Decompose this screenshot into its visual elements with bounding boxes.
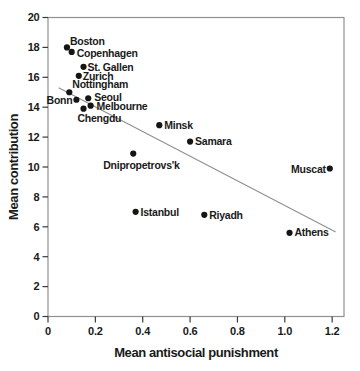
x-tick-label: 1.2	[325, 325, 340, 337]
x-tick-label: 0.4	[135, 325, 151, 337]
x-tick-label: 0.8	[230, 325, 245, 337]
point-dnipropetrovs-k	[130, 150, 136, 156]
y-axis-title: Mean contribution	[6, 114, 21, 220]
label-riyadh: Riyadh	[209, 209, 243, 221]
chart-canvas: 0246810121416182000.20.40.60.81.01.2Bost…	[0, 0, 360, 371]
point-seoul	[85, 95, 91, 101]
y-tick-label: 14	[28, 101, 41, 113]
scatter-figure: 0246810121416182000.20.40.60.81.01.2Bost…	[0, 0, 360, 371]
point-samara	[187, 138, 193, 144]
y-tick-label: 0	[34, 310, 40, 322]
y-tick-label: 6	[34, 221, 40, 233]
plot-area: 0246810121416182000.20.40.60.81.01.2Bost…	[28, 11, 344, 336]
label-samara: Samara	[195, 135, 232, 147]
point-athens	[286, 230, 292, 236]
point-istanbul	[133, 209, 139, 215]
label-copenhagen: Copenhagen	[77, 47, 138, 59]
y-tick-label: 10	[28, 161, 40, 173]
label-melbourne: Melbourne	[97, 100, 148, 112]
y-tick-label: 2	[34, 280, 40, 292]
point-melbourne	[88, 103, 94, 109]
point-bonn	[73, 97, 79, 103]
label-chengdu: Chengdu	[78, 112, 122, 124]
y-tick-label: 20	[28, 11, 40, 23]
x-axis-title: Mean antisocial punishment	[114, 345, 279, 360]
x-tick-label: 0.6	[183, 325, 198, 337]
label-dnipropetrovs-k: Dnipropetrovs'k	[103, 159, 180, 171]
point-minsk	[156, 122, 162, 128]
x-tick-label: 0.2	[88, 325, 103, 337]
point-muscat	[327, 165, 333, 171]
y-tick-label: 12	[28, 131, 40, 143]
point-chengdu	[80, 106, 86, 112]
label-nottingham: Nottingham	[72, 78, 128, 90]
y-tick-label: 8	[34, 191, 40, 203]
label-athens: Athens	[295, 226, 329, 238]
label-boston: Boston	[70, 35, 105, 47]
y-tick-label: 16	[28, 71, 40, 83]
x-tick-label: 1.0	[277, 325, 292, 337]
y-tick-label: 18	[28, 41, 40, 53]
x-tick-label: 0	[45, 325, 51, 337]
point-copenhagen	[69, 49, 75, 55]
label-istanbul: Istanbul	[141, 206, 180, 218]
label-minsk: Minsk	[164, 119, 193, 131]
y-tick-label: 4	[34, 251, 41, 263]
label-muscat: Muscat	[291, 163, 326, 175]
label-bonn: Bonn	[47, 94, 73, 106]
point-riyadh	[201, 212, 207, 218]
